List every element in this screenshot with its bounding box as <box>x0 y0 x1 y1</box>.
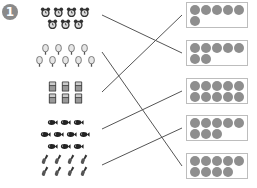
match-line <box>102 52 182 166</box>
match-line <box>102 15 182 53</box>
match-line <box>102 128 182 165</box>
match-line <box>102 91 182 129</box>
matching-lines <box>0 0 257 188</box>
match-line <box>102 15 182 92</box>
